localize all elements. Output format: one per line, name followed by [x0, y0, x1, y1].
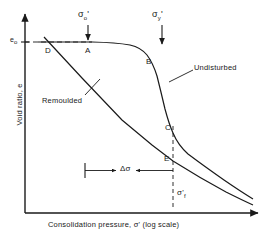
- x-axis-title-symbol: σ': [134, 220, 140, 229]
- figure-canvas: [0, 0, 272, 237]
- undisturbed-leader-line: [169, 70, 193, 82]
- point-label-d: D: [45, 46, 51, 55]
- point-label-c: C: [165, 123, 171, 132]
- consolidation-curve-figure: eo Void ratio, e Consolidation pressure,…: [0, 0, 272, 237]
- point-label-a: A: [85, 46, 91, 55]
- x-axis-title-text: Consolidation pressure,: [48, 220, 131, 229]
- annotation-sigma-y: σy': [152, 9, 163, 21]
- curve-label-undisturbed: Undisturbed: [194, 63, 237, 72]
- annotation-sigma-f: σ'f: [177, 188, 186, 199]
- e0-subscript: o: [14, 39, 18, 45]
- y-axis-title: Void ratio, e: [15, 55, 24, 155]
- point-label-e: E: [164, 154, 170, 163]
- annotation-sigma-o: σo': [78, 9, 89, 21]
- point-label-b: B: [146, 57, 152, 66]
- remoulded-leader-line: [85, 79, 100, 95]
- x-axis-title: Consolidation pressure, σ' (log scale): [48, 220, 179, 229]
- curve-label-remoulded: Remoulded: [42, 96, 82, 105]
- sigma-o-prime: ': [87, 9, 89, 19]
- sigma-f-subscript: f: [184, 193, 186, 199]
- y-axis-tick-label-e0: eo: [10, 36, 18, 45]
- sigma-y-prime: ': [161, 9, 163, 19]
- x-axis-title-scale: (log scale): [142, 220, 179, 229]
- annotation-delta-sigma: Δσ: [118, 164, 133, 173]
